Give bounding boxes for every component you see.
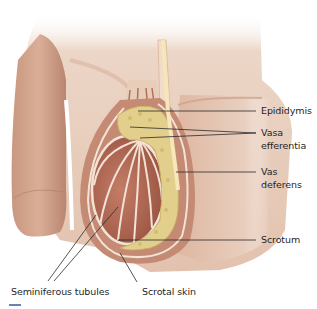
anatomy-illustration	[0, 0, 317, 309]
label-epididymis: Epididymis	[261, 105, 312, 117]
label-vasa-efferentia-line2: efferentia	[261, 140, 306, 152]
figure-accent-bar	[9, 304, 21, 306]
label-vas-deferens-line2: deferens	[261, 179, 302, 191]
label-scrotal-skin: Scrotal skin	[142, 286, 196, 298]
label-seminiferous-tubules: Seminiferous tubules	[11, 286, 109, 298]
label-vasa-efferentia-line1: Vasa	[261, 127, 283, 139]
label-vas-deferens-line1: Vas	[261, 166, 277, 178]
label-scrotum: Scrotum	[261, 234, 300, 246]
testis	[92, 136, 164, 244]
